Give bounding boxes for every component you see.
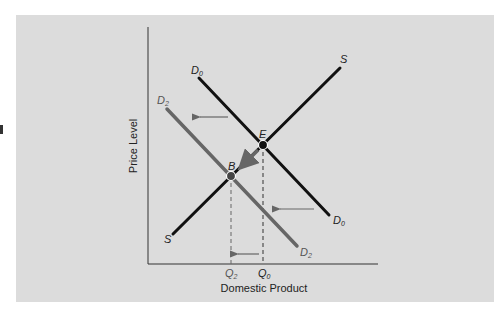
q2-tick-label: Q2	[225, 267, 238, 280]
d2-label-top: D2	[157, 94, 169, 107]
point-e	[259, 141, 268, 150]
point-b	[227, 172, 236, 181]
ad-as-diagram: S S D0 D0 D2 D2 E B Q2 Q0 Domestic Produ…	[0, 0, 504, 312]
e-to-b-arrow	[240, 150, 258, 168]
d0-label-top: D0	[191, 64, 203, 77]
e-label: E	[259, 128, 267, 140]
s-label-top: S	[340, 53, 348, 65]
y-axis-title: Price Level	[127, 119, 139, 173]
d0-label-bottom: D0	[333, 214, 345, 227]
b-label: B	[228, 160, 235, 172]
x-axis-title: Domestic Product	[221, 282, 308, 294]
q0-tick-label: Q0	[258, 267, 271, 280]
s-label-bottom: S	[164, 233, 172, 245]
d2-label-bottom: D2	[300, 246, 312, 259]
